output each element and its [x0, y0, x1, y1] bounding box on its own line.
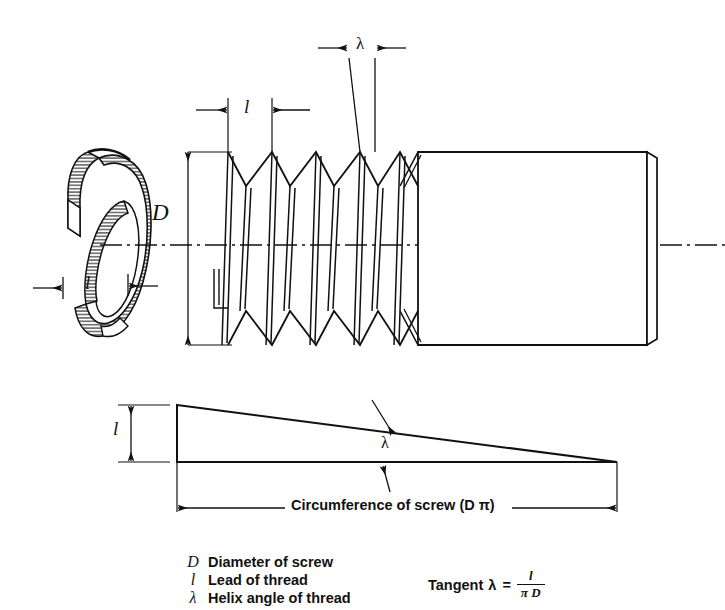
helix-angle-dimension-top: [318, 48, 406, 152]
screw-body: [214, 152, 657, 345]
legend-symbol-l: l: [178, 571, 208, 589]
circumference-caption-text: Circumference of screw (D π): [291, 497, 495, 513]
formula-word: Tangent: [428, 577, 483, 593]
legend: D Diameter of screw l Lead of thread λ H…: [178, 553, 351, 607]
unrolled-triangle-graphic: [177, 400, 617, 492]
helix-angle-label-top: λ: [356, 34, 364, 54]
lead-label-triangle: l: [113, 418, 118, 440]
legend-text-lead: Lead of thread: [208, 571, 308, 589]
legend-text-diameter: Diameter of screw: [208, 553, 333, 571]
legend-row-helix-angle: λ Helix angle of thread: [178, 589, 351, 607]
lead-dimension-triangle: [118, 405, 170, 462]
legend-text-helix-angle: Helix angle of thread: [208, 589, 351, 607]
formula-numerator: l: [525, 569, 537, 583]
lead-label-top: l: [244, 96, 249, 118]
diameter-label: D: [152, 200, 169, 226]
helix-loop-graphic: [68, 149, 151, 336]
formula-denominator: π D: [517, 586, 545, 600]
tangent-formula: Tangent λ = l π D: [428, 570, 545, 601]
legend-row-diameter: D Diameter of screw: [178, 553, 351, 571]
helix-angle-label-triangle: λ: [381, 434, 389, 452]
formula-fraction: l π D: [517, 569, 545, 600]
formula-lambda: λ: [488, 577, 496, 593]
lead-label-left: l: [85, 272, 90, 294]
circumference-caption: Circumference of screw (D π): [287, 497, 499, 513]
lead-dimension-top: [196, 98, 310, 152]
legend-symbol-lambda: λ: [178, 589, 208, 607]
legend-symbol-d: D: [178, 553, 208, 571]
formula-equals: =: [502, 577, 510, 593]
screw-helix-diagram: [0, 0, 725, 610]
legend-row-lead: l Lead of thread: [178, 571, 351, 589]
